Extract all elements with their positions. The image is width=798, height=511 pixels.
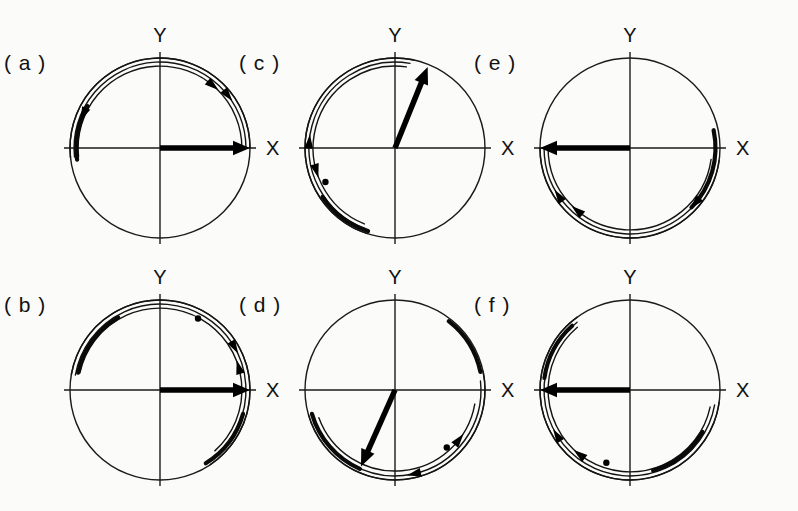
arc-d-0: [308, 371, 484, 480]
arc-b-4: [206, 414, 243, 463]
y-axis-label-c: Y: [388, 24, 401, 46]
panel-e: YX( e ): [474, 24, 749, 244]
x-axis-label-b: X: [266, 379, 279, 401]
y-axis-label-d: Y: [388, 266, 401, 288]
y-axis-label-f: Y: [623, 266, 636, 288]
dot-marker-f-0: [603, 460, 609, 466]
arc-b-3: [78, 318, 118, 373]
dot-marker-b-0: [195, 315, 201, 321]
panel-label-b: ( b ): [4, 293, 46, 316]
y-axis-label-e: Y: [623, 24, 636, 46]
x-axis-label-c: X: [501, 137, 514, 159]
figure-canvas: YX( a )YX( b )YX( c )YX( d )YX( e )YX( f…: [0, 0, 798, 511]
panel-label-c: ( c ): [239, 51, 280, 74]
x-axis-label-d: X: [501, 379, 514, 401]
y-axis-label-b: Y: [153, 266, 166, 288]
panel-f: YX( f ): [474, 266, 749, 486]
x-axis-label-e: X: [736, 137, 749, 159]
panel-label-e: ( e ): [474, 51, 516, 74]
y-axis-label-a: Y: [153, 24, 166, 46]
vector-shaft-c: [395, 79, 423, 148]
figure-root: YX( a )YX( b )YX( c )YX( d )YX( e )YX( f…: [0, 0, 798, 511]
vector-arrowhead-c: [415, 67, 428, 85]
arc-d-4: [449, 321, 481, 372]
panel-label-f: ( f ): [474, 293, 511, 316]
arc-d-3: [312, 414, 360, 469]
panel-label-a: ( a ): [4, 51, 46, 74]
dot-marker-d-0: [444, 444, 450, 450]
x-axis-label-f: X: [736, 379, 749, 401]
dot-marker-c-0: [322, 179, 328, 185]
panel-label-d: ( d ): [239, 293, 281, 316]
x-axis-label-a: X: [266, 137, 279, 159]
arc-d-1: [313, 381, 481, 476]
vector-shaft-d: [366, 390, 395, 455]
arc-e-3: [692, 130, 716, 207]
